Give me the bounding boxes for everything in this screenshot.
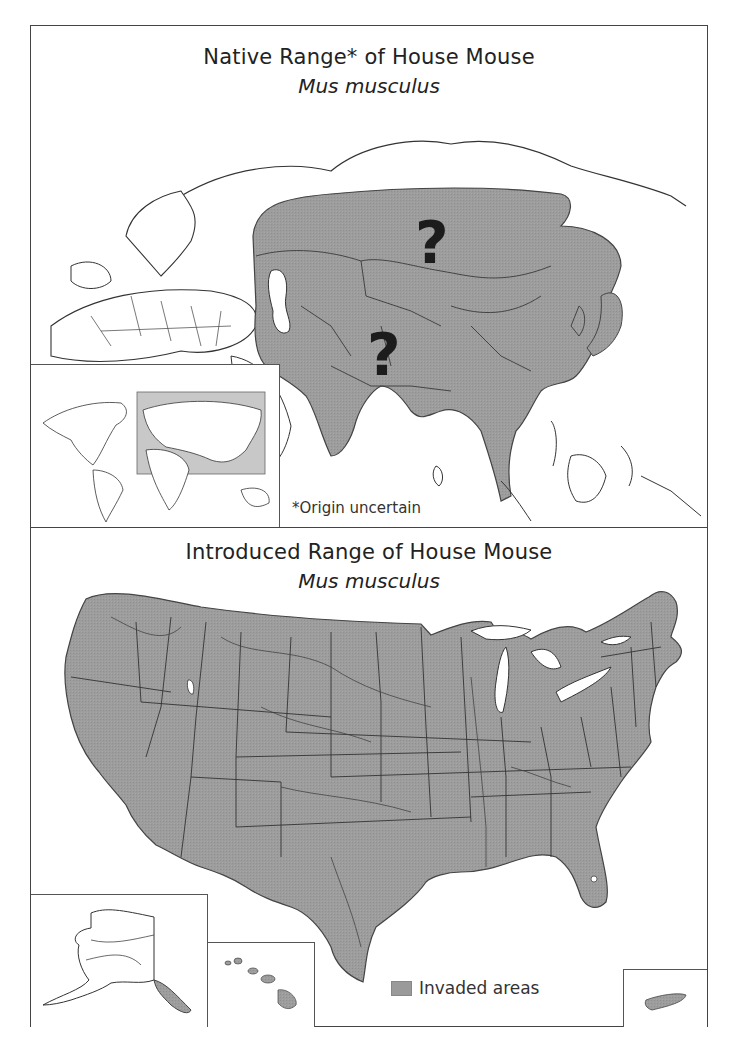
native-map-title: Native Range* of House Mouse (31, 45, 707, 69)
map-legend: Invaded areas (391, 978, 539, 998)
introduced-map-subtitle: Mus musculus (31, 569, 707, 593)
question-mark-icon: ? (415, 214, 449, 272)
alaska-inset (31, 894, 208, 1027)
native-range-panel: Native Range* of House Mouse Mus musculu… (31, 26, 707, 528)
puerto-rico-map (624, 970, 707, 1027)
question-mark-icon: ? (367, 326, 401, 384)
introduced-range-panel: Introduced Range of House Mouse Mus musc… (31, 527, 707, 1027)
hawaii-inset (207, 942, 315, 1027)
world-locator-inset (31, 364, 280, 527)
puerto-rico-inset (623, 969, 707, 1027)
figure-frame: Native Range* of House Mouse Mus musculu… (30, 25, 708, 1027)
world-map (31, 365, 280, 527)
native-map-subtitle: Mus musculus (31, 74, 707, 98)
alaska-map (31, 895, 208, 1027)
legend-label: Invaded areas (419, 978, 539, 998)
hawaii-map (208, 943, 315, 1027)
invaded-areas-swatch (391, 981, 412, 996)
origin-footnote: *Origin uncertain (292, 499, 421, 517)
introduced-map-title: Introduced Range of House Mouse (31, 540, 707, 564)
